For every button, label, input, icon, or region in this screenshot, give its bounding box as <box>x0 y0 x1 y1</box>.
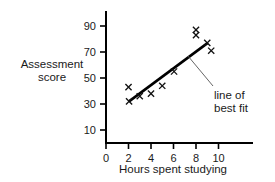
line-of-best-fit <box>129 43 208 102</box>
y-tick-label: 70 <box>84 46 96 58</box>
y-tick-label: 90 <box>84 20 96 32</box>
trendline-annotation-line2: best fit <box>214 102 248 114</box>
data-point-marker <box>208 48 214 54</box>
x-axis-label: Hours spent studying <box>98 163 248 176</box>
trendline-annotation-line1: line of <box>214 89 245 101</box>
data-point-marker <box>148 91 154 97</box>
y-axis-label: Assessment score <box>8 58 96 84</box>
y-axis-label-line1: Assessment <box>21 58 84 70</box>
axes-group <box>106 12 252 143</box>
data-point-marker <box>204 40 210 46</box>
y-tick-label: 30 <box>84 98 96 110</box>
y-tick-label: 10 <box>84 124 96 136</box>
data-point-marker <box>193 32 199 38</box>
x-axis-ticks: 0246810 <box>103 143 225 164</box>
trendline-annotation: line of best fit <box>214 89 248 115</box>
y-axis-label-line2: score <box>38 71 66 83</box>
scatter-chart-figure: 1030507090 0246810 Assessment score Hour… <box>0 0 275 182</box>
data-point-marker <box>125 84 131 90</box>
annotation-leader-line <box>188 56 213 86</box>
data-point-marker <box>159 83 165 89</box>
